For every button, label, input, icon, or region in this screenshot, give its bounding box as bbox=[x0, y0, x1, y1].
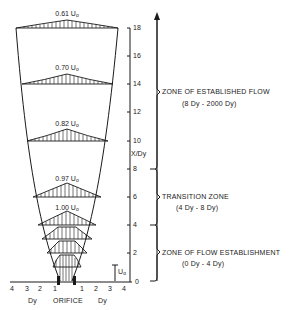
y-tick-8: 8 bbox=[133, 165, 137, 173]
velocity-label-4: 1.00 Uo bbox=[55, 204, 78, 213]
jet-diagram-graphics bbox=[0, 0, 294, 310]
y-tick-16: 16 bbox=[133, 52, 141, 60]
y-tick-18: 18 bbox=[133, 24, 141, 32]
x-tick-right-3: 3 bbox=[108, 285, 112, 293]
x-tick-left-3: 3 bbox=[25, 285, 29, 293]
y-tick-4: 4 bbox=[133, 221, 137, 229]
y-tick-0: 0 bbox=[135, 278, 139, 286]
y-tick-2: 2 bbox=[133, 249, 137, 257]
brace-establishment bbox=[150, 225, 160, 281]
orifice-right bbox=[73, 276, 76, 285]
jet-boundary-left bbox=[16, 28, 60, 281]
x-unit-left: Dy bbox=[28, 297, 37, 305]
arrow-up-icon bbox=[154, 12, 160, 20]
zone-transition-name: TRANSITION ZONE bbox=[162, 193, 229, 201]
velocity-label-18: 0.61 Uo bbox=[55, 10, 78, 19]
x-unit-right: Dy bbox=[98, 297, 107, 305]
orifice-left bbox=[57, 276, 60, 285]
brace-transition bbox=[150, 169, 160, 225]
zone-transition-range: (4 Dy - 8 Dy) bbox=[176, 204, 218, 212]
orifice-label: ORIFICE bbox=[53, 297, 83, 305]
y-tick-14: 14 bbox=[133, 80, 141, 88]
jet-boundary-right bbox=[72, 28, 118, 281]
x-tick-right-2: 2 bbox=[94, 285, 98, 293]
x-tick-left-1: 1 bbox=[53, 285, 57, 293]
x-tick-left-4: 4 bbox=[10, 285, 14, 293]
zone-establishment-range: (0 Dy - 4 Dy) bbox=[182, 260, 224, 268]
velocity-label-14: 0.70 Uo bbox=[55, 64, 78, 73]
brace-established bbox=[150, 20, 160, 169]
zone-establishment-name: ZONE OF FLOW ESTABLISHMENT bbox=[162, 249, 280, 257]
x-tick-right-1: 1 bbox=[80, 285, 84, 293]
y-tick-10: 10 bbox=[133, 137, 141, 145]
x-tick-right-4: 4 bbox=[122, 285, 126, 293]
initial-velocity-label: Uo bbox=[118, 268, 126, 277]
zone-established-name: ZONE OF ESTABLISHED FLOW bbox=[162, 88, 270, 96]
velocity-label-10: 0.82 Uo bbox=[55, 120, 78, 129]
zone-established-range: (8 Dy - 2000 Dy) bbox=[182, 100, 237, 108]
y-tick-6: 6 bbox=[133, 193, 137, 201]
velocity-label-6: 0.97 Uo bbox=[55, 175, 78, 184]
y-tick-12: 12 bbox=[133, 108, 141, 116]
x-tick-left-2: 2 bbox=[38, 285, 42, 293]
y-axis-label: X/Dy bbox=[131, 150, 146, 158]
